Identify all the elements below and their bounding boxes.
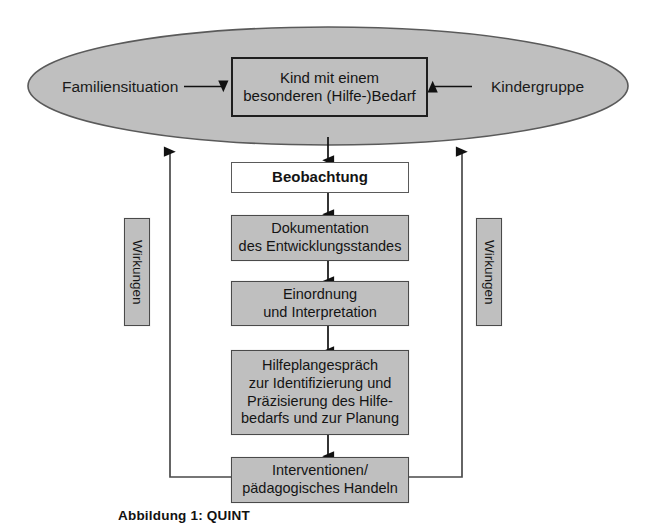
node-hilfeplangespraech-line-2: zur Identifizierung und: [249, 375, 392, 393]
node-wirkungen-right: Wirkungen: [476, 218, 502, 326]
node-wirkungen-left: Wirkungen: [124, 218, 150, 326]
label-wirkungen-right: Wirkungen: [481, 240, 497, 305]
node-einordnung: Einordnung und Interpretation: [231, 281, 409, 326]
node-interventionen: Interventionen/ pädagogisches Handeln: [231, 457, 409, 503]
node-beobachtung-line-1: Beobachtung: [272, 168, 368, 186]
node-interventionen-line-1: Interventionen/: [272, 462, 368, 480]
label-kindergruppe: Kindergruppe: [491, 78, 584, 96]
node-dokumentation-line-1: Dokumentation: [271, 220, 369, 238]
node-hilfeplangespraech-line-1: Hilfeplangespräch: [262, 357, 378, 375]
node-dokumentation: Dokumentation des Entwicklungsstandes: [231, 215, 409, 261]
node-einordnung-line-2: und Interpretation: [263, 304, 377, 322]
node-hilfeplangespraech: Hilfeplangespräch zur Identifizierung un…: [231, 350, 409, 435]
feedback-loop-left: [170, 152, 231, 477]
node-kind-line-1: Kind mit einem: [280, 69, 379, 87]
node-kind-mit-besonderem-bedarf: Kind mit einem besonderen (Hilfe-)Bedarf: [231, 57, 428, 117]
label-wirkungen-left: Wirkungen: [129, 240, 145, 305]
figure-caption: Abbildung 1: QUINT: [118, 508, 548, 523]
node-interventionen-line-2: pädagogisches Handeln: [242, 480, 398, 498]
node-hilfeplangespraech-line-4: bedarfs und zur Planung: [241, 410, 399, 428]
diagram-canvas: Kind mit einem besonderen (Hilfe-)Bedarf…: [0, 0, 656, 525]
node-kind-line-2: besonderen (Hilfe-)Bedarf: [243, 87, 416, 105]
node-einordnung-line-1: Einordnung: [283, 286, 357, 304]
node-dokumentation-line-2: des Entwicklungsstandes: [239, 238, 402, 256]
feedback-loop-right: [409, 152, 462, 477]
node-hilfeplangespraech-line-3: Präzisierung des Hilfe-: [247, 393, 393, 411]
label-familiensituation: Familiensituation: [62, 78, 178, 96]
node-beobachtung: Beobachtung: [231, 162, 409, 193]
